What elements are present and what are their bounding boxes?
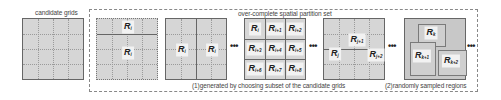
region-label: Ri+8 [287, 63, 304, 76]
region-label: Ri [206, 44, 218, 57]
candidate-grids-title: candidate grids [35, 9, 78, 16]
region-label: Ri [249, 23, 261, 36]
partition-block-5: Rk Rk+1 Rk+2 [404, 18, 466, 80]
region-label: Rj+1 [349, 34, 366, 47]
ellipsis: ••• [467, 41, 475, 51]
region-label: Rj [329, 48, 341, 61]
region-label: Ri+7 [267, 63, 284, 76]
region-label: Ri+3 [247, 43, 264, 56]
random-caption: (2)randomly sampled regions [385, 82, 466, 89]
region-label: Rk [424, 27, 437, 40]
partition-block-2: Ri Ri [165, 18, 227, 80]
generated-caption: (1)generated by choosing subset of the c… [192, 82, 345, 89]
region-label: Ri [176, 44, 188, 57]
region-label: Ri [122, 21, 134, 34]
region-label: Ri+5 [287, 43, 304, 56]
partition-block-1: Ri Ri [96, 18, 158, 80]
overcomplete-title: over-complete spatial partition set [236, 10, 334, 17]
region-label: Ri+2 [287, 23, 304, 36]
region-label: Ri+1 [267, 23, 284, 36]
region-label: Rk+2 [442, 55, 460, 68]
region-label: Ri+6 [247, 63, 264, 76]
ellipsis: ••• [230, 41, 238, 51]
ellipsis: ••• [309, 41, 317, 51]
region-label: Rk+1 [413, 50, 431, 63]
partition-block-4: Rj Rj+1 Rj+2 [323, 18, 385, 80]
ellipsis: ••• [388, 41, 396, 51]
region-label: Rj+2 [368, 49, 385, 62]
partition-block-3: Ri Ri+1 Ri+2 Ri+3 Ri+4 Ri+5 Ri+6 Ri+7 Ri… [244, 18, 306, 80]
candidate-grid [22, 18, 84, 80]
region-label: Ri [122, 47, 134, 60]
region-label: Ri+4 [267, 43, 284, 56]
